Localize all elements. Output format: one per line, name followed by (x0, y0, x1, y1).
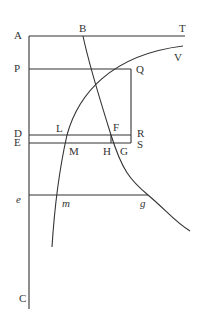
label-G: G (120, 145, 128, 157)
label-F: F (113, 121, 119, 133)
label-T: T (179, 22, 186, 34)
label-m: m (62, 197, 70, 209)
label-C: C (19, 292, 26, 304)
label-L: L (56, 122, 63, 134)
label-E: E (14, 136, 21, 148)
label-S: S (137, 138, 143, 150)
label-e: e (16, 193, 21, 205)
label-H: H (103, 145, 111, 157)
diagram-canvas: A B T V P Q D L F R E M H G S e m g C (0, 0, 203, 322)
label-A: A (14, 29, 22, 41)
label-Q: Q (136, 63, 144, 75)
label-P: P (14, 62, 20, 74)
label-B: B (79, 22, 86, 34)
label-M: M (69, 145, 79, 157)
label-V: V (174, 51, 182, 63)
label-g: g (140, 197, 146, 209)
